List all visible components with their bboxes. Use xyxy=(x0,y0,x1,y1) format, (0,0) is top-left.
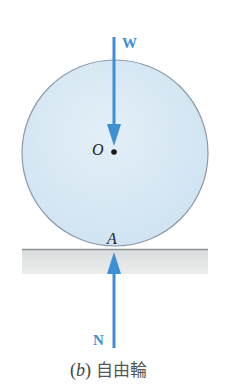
normal-force-label: N xyxy=(93,333,104,348)
figure-caption: (b) 自由輪 xyxy=(70,361,147,379)
caption-part-letter: b xyxy=(76,360,85,380)
center-point-label: O xyxy=(92,142,104,158)
caption-title: 自由輪 xyxy=(96,360,147,380)
weight-force-label: W xyxy=(122,36,137,51)
center-point-dot xyxy=(111,149,117,155)
contact-point-label: A xyxy=(107,231,117,247)
caption-paren-close: ) xyxy=(85,360,91,380)
free-body-diagram xyxy=(0,0,225,387)
